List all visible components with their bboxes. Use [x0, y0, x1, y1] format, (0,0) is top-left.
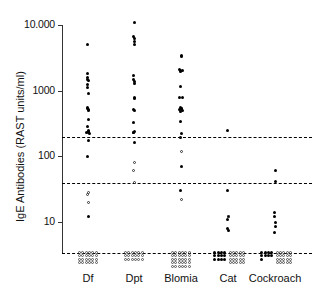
- data-point-filled: [179, 136, 182, 139]
- y-axis-label: IgE Antibodies (RAST units/ml): [14, 71, 26, 222]
- cluster-dot: [242, 254, 245, 257]
- data-point-filled: [179, 85, 182, 88]
- data-point-filled: [86, 86, 89, 89]
- data-point-filled: [87, 79, 90, 82]
- data-point-filled: [180, 55, 183, 58]
- data-point-open: [133, 181, 136, 184]
- data-point-filled: [226, 129, 229, 132]
- data-point-filled: [274, 169, 277, 172]
- cluster-dot: [174, 265, 177, 268]
- data-point-open: [132, 169, 135, 172]
- data-point-filled: [274, 221, 277, 224]
- data-point-filled: [133, 82, 136, 85]
- cluster-dot: [282, 254, 285, 257]
- data-point-filled: [87, 215, 90, 218]
- y-axis-tick: [58, 91, 63, 92]
- data-point-filled: [87, 92, 90, 95]
- cluster-dot: [188, 265, 191, 268]
- data-point-filled: [132, 74, 135, 77]
- data-point-filled: [273, 211, 276, 214]
- data-point-open: [87, 201, 90, 204]
- cluster-dot: [289, 254, 292, 257]
- cluster-dot: [184, 254, 187, 257]
- y-axis-tick: [58, 222, 63, 223]
- data-point-filled: [86, 155, 89, 158]
- cluster-dot: [184, 261, 187, 264]
- x-axis-category-label-cockroach: Cockroach: [235, 272, 315, 284]
- cluster-dot: [174, 254, 177, 257]
- baseline-cluster-solid: [213, 251, 227, 261]
- data-point-filled: [180, 165, 183, 168]
- cluster-dot: [260, 258, 263, 261]
- cluster-dot: [223, 258, 226, 261]
- cluster-dot: [184, 265, 187, 268]
- data-point-filled: [87, 118, 90, 121]
- data-point-filled: [87, 139, 90, 142]
- data-point-filled: [181, 96, 184, 99]
- data-point-filled: [227, 229, 230, 232]
- y-axis-tick-label: 10: [44, 215, 55, 227]
- data-point-filled: [133, 97, 136, 100]
- cluster-dot: [137, 258, 140, 261]
- cluster-dot: [91, 261, 94, 264]
- data-point-open: [227, 215, 230, 218]
- y-axis-line: [62, 25, 63, 254]
- data-point-filled: [179, 189, 182, 192]
- scatter-plot-figure: IgE Antibodies (RAST units/ml) 10.000100…: [0, 0, 315, 298]
- y-axis-tick-label: 10.000: [24, 18, 55, 30]
- cluster-dot: [270, 254, 273, 257]
- cluster-dot: [213, 254, 216, 257]
- cluster-dot: [235, 254, 238, 257]
- data-point-filled: [86, 125, 89, 128]
- data-point-filled: [133, 43, 136, 46]
- data-point-filled: [274, 225, 277, 228]
- baseline-cluster-solid: [260, 251, 274, 261]
- data-point-filled: [86, 72, 89, 75]
- data-point-filled: [226, 189, 229, 192]
- cluster-dot: [141, 254, 144, 257]
- data-point-filled: [86, 43, 89, 46]
- cluster-dot: [223, 254, 226, 257]
- data-point-filled: [226, 218, 229, 221]
- baseline-cluster-open: [171, 251, 191, 268]
- reference-line: [62, 137, 312, 138]
- data-point-filled: [133, 141, 136, 144]
- cluster-dot: [81, 261, 84, 264]
- data-point-filled: [179, 110, 182, 113]
- cluster-dot: [235, 261, 238, 264]
- cluster-dot: [188, 261, 191, 264]
- cluster-dot: [242, 261, 245, 264]
- data-point-filled: [273, 215, 276, 218]
- data-point-filled: [180, 132, 183, 135]
- data-point-open: [133, 161, 136, 164]
- data-point-open: [86, 193, 89, 196]
- y-axis-tick: [58, 156, 63, 157]
- cluster-dot: [141, 258, 144, 261]
- baseline-cluster-open: [276, 251, 293, 265]
- data-point-filled: [179, 120, 182, 123]
- data-point-filled: [133, 21, 136, 24]
- cluster-dot: [95, 261, 98, 264]
- cluster-dot: [213, 258, 216, 261]
- cluster-dot: [260, 254, 263, 257]
- data-point-open: [180, 150, 183, 153]
- cluster-dot: [137, 254, 140, 257]
- cluster-dot: [289, 261, 292, 264]
- baseline-cluster-open: [124, 251, 144, 261]
- data-point-filled: [87, 109, 90, 112]
- data-point-filled: [273, 231, 276, 234]
- data-point-filled: [86, 83, 89, 86]
- data-point-filled: [132, 121, 135, 124]
- cluster-dot: [127, 258, 130, 261]
- y-axis-tick: [58, 25, 63, 26]
- cluster-dot: [95, 254, 98, 257]
- baseline-cluster-open: [229, 251, 246, 265]
- data-point-filled: [274, 180, 277, 183]
- data-point-filled: [132, 131, 135, 134]
- cluster-dot: [174, 261, 177, 264]
- cluster-dot: [127, 254, 130, 257]
- data-point-filled: [88, 132, 91, 135]
- data-point-filled: [133, 109, 136, 112]
- data-point-open: [180, 198, 183, 201]
- cluster-dot: [282, 261, 285, 264]
